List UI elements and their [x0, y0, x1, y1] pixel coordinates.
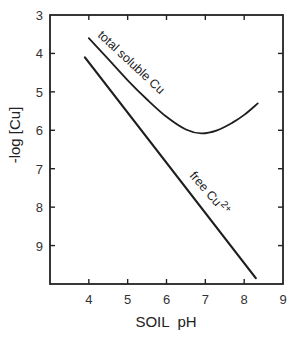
- y-tick-label: 7: [36, 162, 43, 177]
- total-soluble-cu-label: total soluble Cu: [95, 28, 168, 97]
- x-axis-ticks: 456789: [85, 15, 286, 307]
- x-tick-label: 4: [85, 292, 92, 307]
- y-tick-label: 5: [36, 85, 43, 100]
- y-tick-label: 6: [36, 123, 43, 138]
- y-axis-title: -log [Cu]: [6, 107, 23, 164]
- y-axis-ticks: 3456789: [36, 8, 283, 254]
- x-tick-label: 9: [279, 292, 286, 307]
- x-tick-label: 8: [241, 292, 248, 307]
- x-tick-label: 5: [124, 292, 131, 307]
- y-tick-label: 9: [36, 239, 43, 254]
- x-tick-label: 6: [163, 292, 170, 307]
- y-tick-label: 4: [36, 46, 43, 61]
- free-cu-label-text: free Cu: [187, 169, 224, 209]
- x-tick-label: 7: [202, 292, 209, 307]
- x-axis-title: SOIL pH: [135, 313, 196, 330]
- y-tick-label: 8: [36, 200, 43, 215]
- y-tick-label: 3: [36, 8, 43, 23]
- free-cu2-curve: [85, 57, 256, 278]
- chart: 456789 3456789 SOIL pH -log [Cu] total s…: [0, 0, 302, 340]
- plot-border: [50, 15, 283, 284]
- plot-curves: [85, 38, 258, 278]
- free-cu-label: free Cu2+: [187, 167, 235, 219]
- plot-frame: [50, 15, 283, 284]
